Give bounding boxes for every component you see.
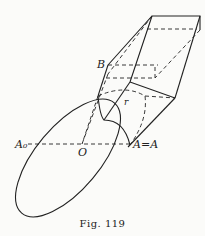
figure-caption: Fig. 119	[0, 218, 205, 229]
label-a-eq-a: A=A	[133, 138, 158, 151]
label-o: O	[78, 146, 87, 159]
label-b: B	[97, 58, 105, 71]
label-r: r	[124, 97, 128, 107]
geometry-drawing	[0, 0, 205, 236]
ellipse	[0, 82, 139, 233]
figure-119: B r A₀ O A=A Fig. 119	[0, 0, 205, 236]
label-a0: A₀	[15, 138, 27, 151]
